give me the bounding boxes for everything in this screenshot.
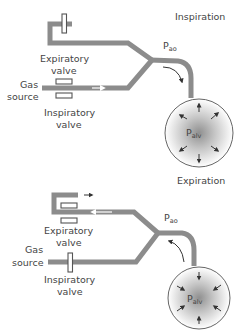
inspiratory-valve-closed [68, 253, 73, 272]
airway-pressure-label: Pao [163, 40, 177, 53]
inspiratory-valve-plate-top [56, 79, 72, 84]
expiratory-valve-label-line2: valve [51, 65, 77, 76]
expiratory-valve-label-line1: Expiratory [40, 53, 89, 64]
airway-tube [150, 60, 191, 98]
gas-source-label-line1: Gas [25, 244, 43, 255]
panel-title: Inspiration [175, 11, 225, 22]
gas-source-label-line2: source [7, 91, 39, 102]
expiratory-valve-plate-bottom [61, 218, 77, 223]
expiratory-valve-plate-top [61, 203, 77, 208]
airway-pressure-label: Pao [164, 212, 178, 225]
outflow-arrow-icon [169, 241, 184, 262]
expiratory-valve-closed [62, 14, 67, 33]
inspiratory-valve-plate-bottom [56, 93, 72, 98]
alveolus-expanding: Palv [165, 99, 233, 167]
airway-tube [156, 233, 194, 266]
inspiratory-valve-label-line1: Inspiratory [44, 274, 96, 285]
inspiratory-valve-label-line2: valve [57, 286, 83, 297]
panel-title: Expiration [177, 175, 225, 186]
ventilation-diagram: Inspiration Expiratory valve Gas source … [0, 0, 244, 335]
inspiration-panel: Inspiration Expiratory valve Gas source … [7, 11, 233, 167]
gas-source-label-line1: Gas [20, 79, 38, 90]
inspiratory-valve-label-line1: Inspiratory [44, 107, 96, 118]
expiratory-valve-label-line2: valve [56, 237, 82, 248]
expiration-panel: Expiration Expiratory valve Gas source I… [12, 175, 230, 329]
expiratory-valve-label-line1: Expiratory [44, 225, 93, 236]
alveolus-deflating: Palv [168, 267, 230, 329]
inspiratory-valve-label-line2: valve [56, 119, 82, 130]
gas-source-label-line2: source [12, 257, 44, 268]
inflow-arrow-icon [163, 67, 182, 82]
